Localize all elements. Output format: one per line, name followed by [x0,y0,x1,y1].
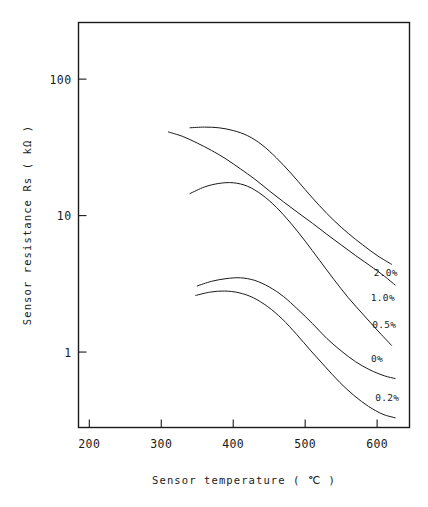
series-label: 2.0% [374,267,398,278]
y-tick-label: 1 [64,346,71,360]
series-label: 0.2% [375,392,399,403]
series-label: 0% [371,353,383,364]
x-tick-label: 200 [78,437,100,451]
y-tick-label: 10 [57,209,72,223]
series-label: 0.5% [372,319,396,330]
x-tick-label: 400 [222,437,244,451]
chart-figure: 110100 200300400500600 2.0%1.0%0.5%0%0.2… [0,0,428,507]
x-axis-title: Sensor temperature ( ℃ ) [152,474,336,486]
x-tick-label: 500 [294,437,316,451]
y-tick-label: 100 [50,73,72,87]
series-label: 1.0% [371,292,395,303]
x-tick-label: 600 [366,437,388,451]
y-axis-title: Sensor resistance Rs ( kΩ ) [21,125,33,325]
sensor-resistance-chart: 110100 200300400500600 2.0%1.0%0.5%0%0.2… [0,0,428,507]
x-tick-label: 300 [150,437,172,451]
